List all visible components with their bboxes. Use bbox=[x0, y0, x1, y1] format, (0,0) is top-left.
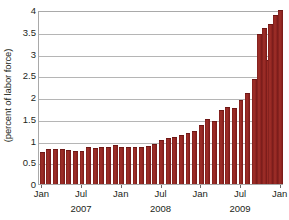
y-tick-label: 3.5 bbox=[14, 28, 36, 38]
bar bbox=[232, 108, 237, 184]
bar bbox=[152, 144, 157, 184]
bar bbox=[252, 79, 257, 184]
bar bbox=[53, 149, 58, 184]
bar bbox=[146, 146, 151, 184]
bar bbox=[179, 135, 184, 184]
bar bbox=[192, 131, 197, 185]
bar bbox=[139, 147, 144, 184]
bar bbox=[46, 149, 51, 184]
x-tick-label: Jul bbox=[75, 188, 87, 199]
x-tick-label: Jan bbox=[113, 188, 128, 199]
bar bbox=[225, 107, 230, 184]
x-year-label: 2008 bbox=[150, 203, 171, 214]
bar bbox=[113, 145, 118, 184]
bar bbox=[119, 147, 124, 184]
bar bbox=[99, 147, 104, 184]
bar bbox=[262, 28, 267, 184]
bar bbox=[212, 121, 217, 185]
bar bbox=[186, 133, 191, 184]
bar bbox=[60, 149, 65, 184]
x-tick-label: Jan bbox=[272, 188, 287, 199]
bar bbox=[268, 24, 273, 185]
bar bbox=[257, 34, 262, 184]
x-year-label: 2007 bbox=[70, 203, 91, 214]
bar bbox=[133, 147, 138, 184]
bar bbox=[205, 119, 210, 184]
x-tick-label: Jul bbox=[154, 188, 166, 199]
bar bbox=[40, 152, 45, 184]
bar bbox=[106, 147, 111, 184]
y-tick-label: 4 bbox=[14, 6, 36, 16]
bar bbox=[126, 147, 131, 184]
x-tick-label: Jul bbox=[234, 188, 246, 199]
y-axis-tick-labels: 00.511.522.533.54 bbox=[14, 0, 36, 190]
plot-area bbox=[38, 11, 283, 185]
bar bbox=[73, 151, 78, 184]
bar bbox=[159, 140, 164, 184]
y-tick-label: 2 bbox=[14, 93, 36, 103]
y-tick-label: 1 bbox=[14, 137, 36, 147]
x-tick-label: Jan bbox=[34, 188, 49, 199]
bar bbox=[66, 150, 71, 184]
bar bbox=[93, 148, 98, 184]
x-axis-year-labels: 200720082009 bbox=[0, 203, 289, 217]
unemployment-bar-chart: (percent of labor force) 00.511.522.533.… bbox=[0, 0, 289, 220]
bar bbox=[86, 147, 91, 184]
bar bbox=[219, 110, 224, 184]
bar bbox=[239, 100, 244, 184]
bar bbox=[245, 93, 250, 184]
bar bbox=[273, 15, 278, 184]
bar bbox=[278, 10, 283, 184]
bars-layer bbox=[39, 12, 282, 184]
x-axis-tick-labels: JanJulJanJulJanJulJan bbox=[0, 188, 289, 202]
x-year-label: 2009 bbox=[229, 203, 250, 214]
bar bbox=[172, 137, 177, 184]
bar bbox=[166, 138, 171, 184]
x-tick-label: Jan bbox=[193, 188, 208, 199]
y-tick-label: 3 bbox=[14, 50, 36, 60]
y-tick-label: 0.5 bbox=[14, 159, 36, 169]
y-axis-title-text: (percent of labor force) bbox=[3, 48, 14, 142]
bar bbox=[80, 151, 85, 184]
bar bbox=[199, 125, 204, 184]
y-tick-label: 1.5 bbox=[14, 115, 36, 125]
y-tick-label: 2.5 bbox=[14, 72, 36, 82]
